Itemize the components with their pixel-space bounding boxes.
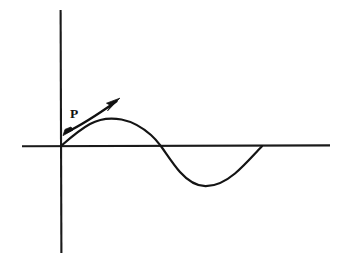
point-p-label: P: [70, 106, 78, 121]
figure-canvas: P: [0, 0, 344, 266]
vertical-axis: [61, 10, 62, 253]
sine-curve: [61, 119, 262, 187]
tangent-vector-arrowhead-icon: [107, 98, 120, 111]
sine-curve-diagram: P: [0, 0, 344, 266]
tangent-vector-tail-barb-icon: [63, 127, 73, 136]
horizontal-axis: [22, 145, 330, 146]
